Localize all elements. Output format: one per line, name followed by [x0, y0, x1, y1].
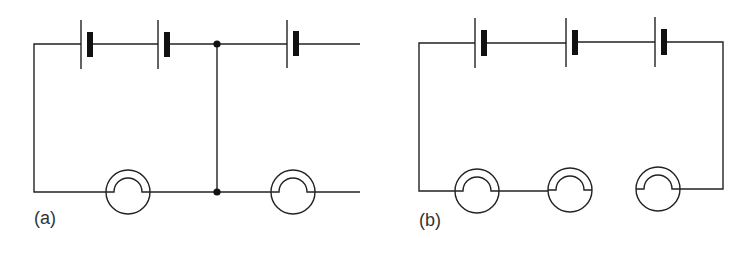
cell-icon: [566, 18, 578, 67]
cell-icon: [81, 20, 93, 69]
panel-label-b: (b): [419, 210, 441, 231]
circuit-a: [34, 20, 360, 214]
bulb-icon: [636, 167, 680, 211]
wire-a-left-loop: [34, 44, 106, 192]
panel-label-a: (a): [34, 208, 56, 229]
circuit-diagrams: [0, 0, 750, 253]
bulb-icon: [548, 168, 592, 212]
bulb-icon: [455, 169, 499, 213]
cell-icon: [475, 18, 487, 68]
cell-icon: [655, 17, 667, 67]
junction-node-icon: [213, 40, 220, 47]
wire-b-right-loop: [667, 42, 723, 189]
cell-icon: [287, 20, 299, 68]
cell-icon: [158, 20, 170, 69]
bulb-icon: [106, 170, 150, 214]
bulb-icon: [271, 170, 315, 214]
wire-b-left-loop: [419, 43, 475, 191]
junction-node-icon: [213, 188, 220, 195]
circuit-b: [419, 17, 723, 213]
